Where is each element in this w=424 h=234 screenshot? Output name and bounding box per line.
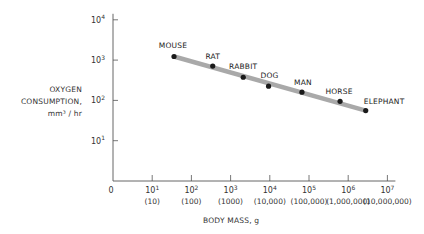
x-tick-value-label: (10,000) [254,197,286,206]
x-tick-value-label: (10) [144,197,159,206]
chart: OXYGEN CONSUMPTION, mm³ / hr BODY MASS, … [0,0,424,234]
data-point-label: ELEPHANT [364,97,405,106]
x-tick-label: 105 [302,184,316,196]
data-point [210,63,215,68]
y-axis-title-line-3: mm³ / hr [48,109,83,118]
y-tick-label: 104 [91,13,105,25]
data-point-label: DOG [261,71,279,80]
x-tick-value-label: (100,000) [291,197,328,206]
data-point-label: MOUSE [159,41,187,50]
y-axis-title-line-2: CONSUMPTION, [21,97,82,106]
data-point [241,75,246,80]
y-axis-title: OXYGEN CONSUMPTION, mm³ / hr [21,85,83,118]
x-tick-value-label: (100) [181,197,201,206]
data-point [337,99,342,104]
x-tick-label-zero: 0 [108,186,113,195]
x-tick-value-label: (10,000,000) [363,197,412,206]
x-tick-value-label: (1000) [218,197,243,206]
data-point-label: MAN [294,78,312,87]
x-axis-title: BODY MASS, g [203,216,259,225]
y-tick-label: 102 [91,94,105,106]
marks: MOUSERATRABBITDOGMANHORSEELEPHANT [159,41,405,113]
y-axis-title-line-1: OXYGEN [49,85,82,94]
x-tick-label: 106 [341,184,355,196]
data-point-label: RABBIT [229,62,258,71]
x-tick-label: 104 [263,184,277,196]
axes [113,14,395,181]
data-point-label: RAT [205,52,220,61]
data-point [266,84,271,89]
x-tick-label: 107 [380,184,394,196]
x-tick-label: 102 [184,184,198,196]
trend-line [174,56,366,110]
data-point [171,54,176,59]
data-point [299,90,304,95]
y-tick-label: 101 [91,134,105,146]
y-tick-label: 103 [91,54,105,66]
x-tick-label: 103 [224,184,238,196]
data-point [363,108,368,113]
x-tick-label: 101 [145,184,159,196]
data-point-label: HORSE [325,87,352,96]
